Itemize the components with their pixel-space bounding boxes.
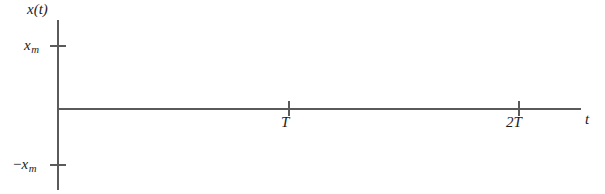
x-tick-label-T: T (281, 115, 289, 130)
time-axis-label: t (585, 112, 589, 127)
time-axis-line (57, 108, 581, 110)
y-tick-label-xm-positive: xm (24, 38, 39, 55)
amplitude-axis-label: x(t) (27, 2, 48, 17)
x-tick-label-2T: 2T (506, 115, 522, 130)
signal-axes-figure: x(t) t xm −xm T 2T (0, 0, 605, 194)
y-tick-label-xm-positive-subscript: m (31, 43, 39, 55)
y-tick-label-xm-negative-base: x (21, 156, 28, 172)
y-tick-label-xm-negative-subscript: m (29, 162, 37, 174)
amplitude-axis-label-argument: (t) (34, 1, 48, 17)
y-tick-label-xm-positive-base: x (24, 37, 31, 53)
y-tick-xm-positive (50, 45, 66, 47)
amplitude-axis-label-variable: x (27, 1, 34, 17)
y-tick-label-xm-negative: −xm (13, 157, 36, 174)
y-tick-xm-negative (50, 164, 66, 166)
